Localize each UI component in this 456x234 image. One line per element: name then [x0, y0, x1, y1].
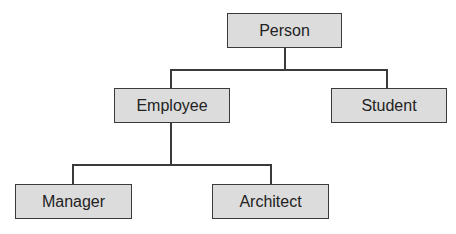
node-student: Student	[331, 88, 447, 123]
connector-person-trunk	[284, 47, 286, 69]
node-architect: Architect	[212, 184, 329, 219]
connector-to-student	[386, 69, 388, 88]
connector-level1-bar	[170, 69, 387, 71]
connector-to-architect	[270, 164, 272, 184]
connector-to-employee	[170, 69, 172, 88]
connector-level2-bar	[72, 164, 271, 166]
node-person: Person	[227, 13, 342, 48]
node-manager: Manager	[15, 184, 132, 219]
connector-to-manager	[72, 164, 74, 184]
connector-employee-trunk	[170, 122, 172, 164]
node-employee: Employee	[114, 88, 230, 123]
